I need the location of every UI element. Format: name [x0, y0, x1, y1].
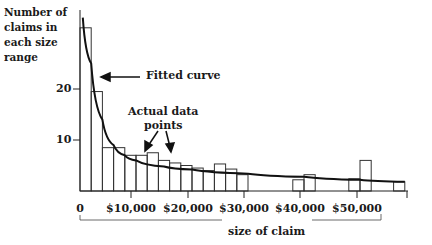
x-tick-40000: $40,000: [275, 202, 325, 215]
histogram-bar: [293, 180, 304, 191]
fitted-curve-line: [83, 18, 405, 182]
actual-data-annotation: Actual data points: [128, 105, 198, 133]
histogram-bar: [237, 175, 248, 191]
histogram-bar: [102, 148, 113, 191]
x-tick-50000: $50,000: [332, 202, 382, 215]
x-tick-20000: $20,000: [163, 202, 213, 215]
histogram-bar: [80, 28, 91, 191]
x-label-bracket-left: [80, 215, 222, 220]
x-tick-10000: $10,000: [106, 202, 156, 215]
histogram-bar: [360, 160, 371, 191]
histogram-bar: [147, 153, 158, 191]
x-axis-label: size of claim: [228, 225, 305, 238]
histogram-bar: [203, 171, 214, 191]
histogram-bar: [214, 164, 225, 191]
histogram-bar: [394, 182, 405, 191]
fitted-curve-annotation: Fitted curve: [146, 69, 221, 83]
x-tick-30000: $30,000: [219, 202, 269, 215]
x-tick-0: 0: [76, 202, 84, 215]
x-tick-marks: [131, 191, 407, 198]
histogram-bar: [158, 160, 169, 191]
